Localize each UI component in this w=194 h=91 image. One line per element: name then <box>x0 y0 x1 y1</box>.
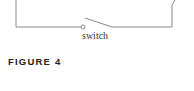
left-wire <box>16 0 81 27</box>
figure-caption: FIGURE 4 <box>8 56 61 67</box>
circuit-diagram <box>0 0 194 50</box>
switch-label: switch <box>82 30 108 41</box>
circuit-wires <box>16 0 175 29</box>
right-wire <box>112 0 175 27</box>
switch-lever <box>85 18 112 27</box>
switch-pivot-icon <box>81 25 85 29</box>
